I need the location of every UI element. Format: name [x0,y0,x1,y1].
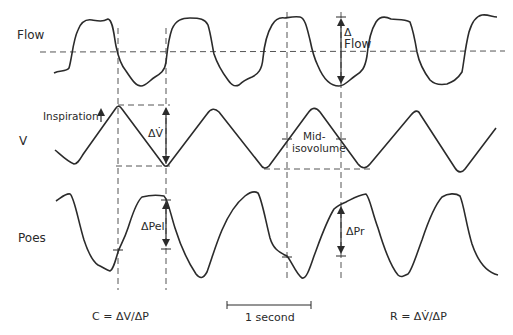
delta-pr-label: ΔPr [346,226,365,237]
volume-trace-label: V [19,135,27,147]
respiratory-mechanics-diagram [0,0,513,335]
volume-trace [55,106,496,172]
flow-trace-label: Flow [17,29,44,41]
poes-trace [56,192,498,278]
poes-trace-label: Poes [18,232,46,244]
mid-isovolume-label-line1: Mid- [303,131,325,142]
scale-bar [227,301,311,309]
flow-trace [54,15,497,86]
flow-zero-baseline [40,51,505,52]
delta-flow-label: Flow [344,38,371,50]
delta-pel-label: ΔPel [141,221,165,232]
compliance-formula: C = ΔV/ΔP [92,311,149,322]
delta-v-dot-label: ΔV̇ [148,128,163,139]
scale-bar-label: 1 second [245,312,295,323]
inspiration-label: Inspiration [43,111,99,122]
resistance-formula: R = ΔV̇/ΔP [390,311,447,322]
mid-isovolume-label-line2: isovolume [292,143,346,154]
